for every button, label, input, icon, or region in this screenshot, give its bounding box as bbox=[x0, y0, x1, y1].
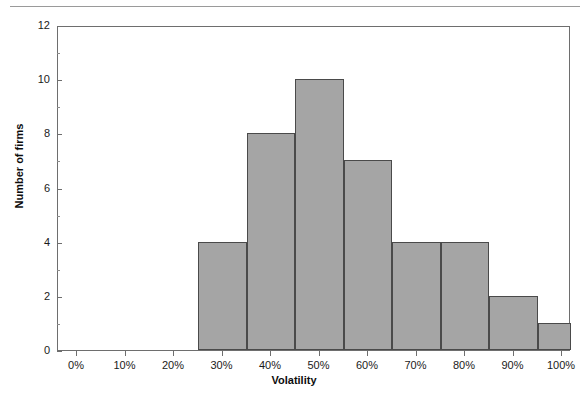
y-axis-tick bbox=[57, 189, 62, 190]
x-axis-tick bbox=[416, 351, 417, 356]
x-axis-tick-label: 100% bbox=[531, 359, 588, 371]
x-axis-tick bbox=[125, 351, 126, 356]
x-axis-tick bbox=[222, 351, 223, 356]
x-axis-tick bbox=[513, 351, 514, 356]
y-axis-title: Number of firms bbox=[13, 106, 25, 226]
y-axis-tick bbox=[57, 80, 62, 81]
x-axis-tick bbox=[319, 351, 320, 356]
y-axis-tick bbox=[57, 297, 62, 298]
x-axis-tick bbox=[367, 351, 368, 356]
y-axis-tick bbox=[57, 243, 62, 244]
y-axis-minor-tick bbox=[57, 270, 60, 271]
y-axis-tick-label: 10 bbox=[0, 74, 50, 85]
y-axis-tick-label: 2 bbox=[0, 291, 50, 302]
y-axis-minor-tick bbox=[57, 216, 60, 217]
y-axis-minor-tick bbox=[57, 107, 60, 108]
y-axis-minor-tick bbox=[57, 324, 60, 325]
y-axis-tick-label: 8 bbox=[0, 128, 50, 139]
y-axis-minor-tick bbox=[57, 53, 60, 54]
x-axis-tick bbox=[464, 351, 465, 356]
x-axis-tick bbox=[561, 351, 562, 356]
x-axis-tick bbox=[270, 351, 271, 356]
y-axis-tick bbox=[57, 26, 62, 27]
x-axis-title: Volatility bbox=[0, 374, 588, 386]
y-axis-tick-label: 12 bbox=[0, 20, 50, 31]
y-axis-tick-label: 4 bbox=[0, 237, 50, 248]
y-axis-minor-tick bbox=[57, 161, 60, 162]
x-axis-tick bbox=[173, 351, 174, 356]
y-axis-tick bbox=[57, 134, 62, 135]
histogram-figure: 024681012 Number of firms 0%10%20%30%40%… bbox=[0, 0, 588, 412]
y-axis-tick-label: 6 bbox=[0, 183, 50, 194]
x-axis-tick bbox=[76, 351, 77, 356]
